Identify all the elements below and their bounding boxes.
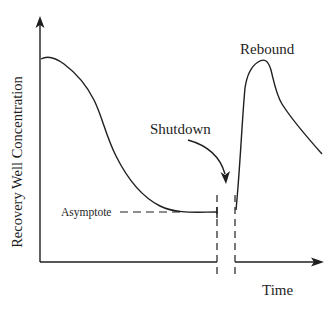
- x-axis: [40, 258, 324, 267]
- y-axis: [36, 16, 45, 262]
- shutdown-break-lines: [217, 195, 235, 277]
- shutdown-pointer-arrow: [188, 140, 225, 174]
- rebound-curve: [236, 60, 322, 210]
- asymptote-label: Asymptote: [61, 207, 111, 219]
- rebound-label: Rebound: [240, 42, 294, 57]
- concentration-rebound-diagram: Rebound Shutdown Asymptote Time Recovery…: [0, 0, 336, 309]
- y-axis-label: Recovery Well Concentration: [10, 76, 25, 248]
- x-axis-label: Time: [262, 283, 293, 298]
- shutdown-label: Shutdown: [150, 122, 211, 137]
